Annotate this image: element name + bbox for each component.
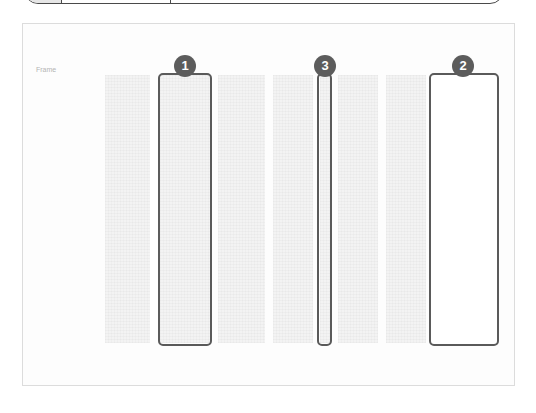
grid-column-7[interactable] <box>386 75 426 343</box>
grid-column-3[interactable] <box>218 75 265 343</box>
grid-column-6[interactable] <box>338 75 378 343</box>
grid-column-1[interactable] <box>105 75 150 343</box>
toolbar-segment-active[interactable] <box>25 0 62 3</box>
marker-badge-1: 1 <box>174 55 196 77</box>
selection-box-2[interactable] <box>429 73 499 346</box>
frame-label: Frame <box>36 66 56 73</box>
selection-box-1[interactable] <box>158 73 212 346</box>
grid-column-4[interactable] <box>273 75 313 343</box>
top-toolbar <box>24 0 504 4</box>
marker-badge-2: 2 <box>452 55 474 77</box>
toolbar-segment[interactable] <box>62 0 171 3</box>
marker-badge-3: 3 <box>314 55 336 77</box>
selection-box-3[interactable] <box>317 73 332 346</box>
